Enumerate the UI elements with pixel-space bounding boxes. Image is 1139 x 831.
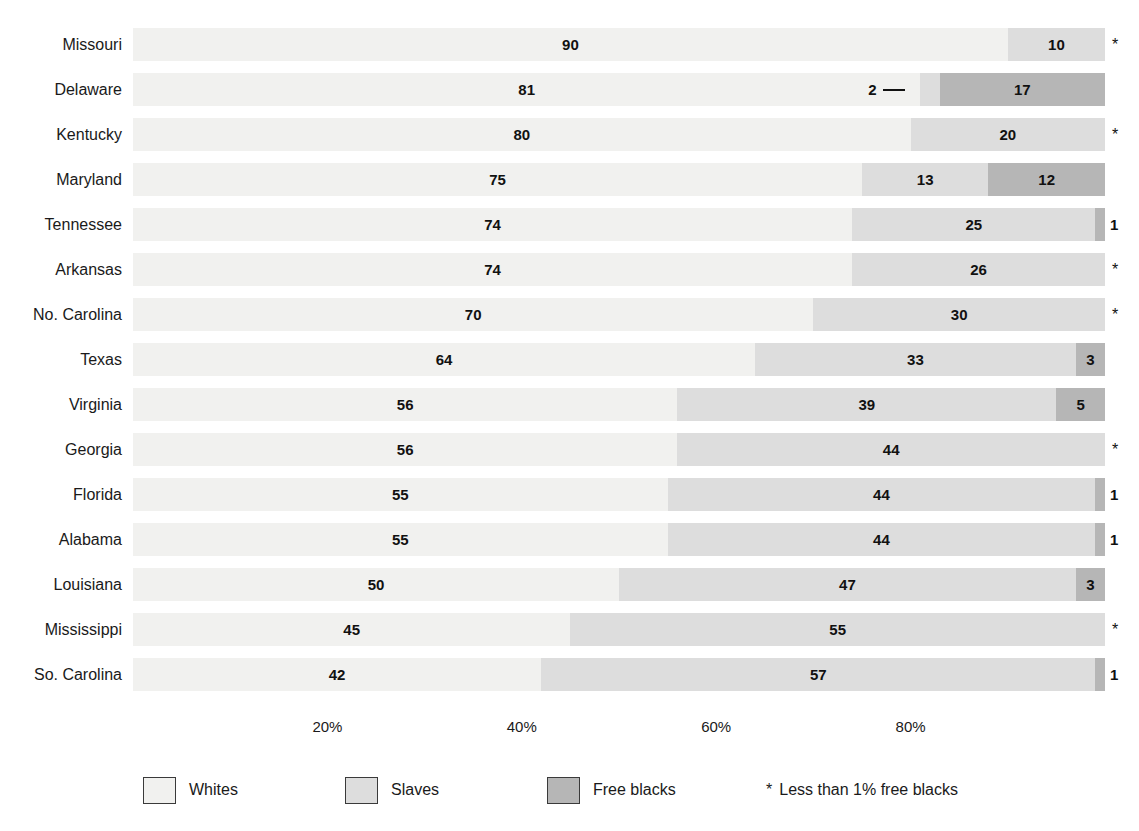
bar-track: 4257	[133, 658, 1105, 691]
chart-legend: WhitesSlavesFree blacks*Less than 1% fre…	[0, 775, 1139, 815]
segment-value-label: 12	[988, 163, 1105, 196]
segment-value-label: 44	[668, 478, 1096, 511]
row-state-label: Virginia	[0, 388, 122, 421]
chart-row: Delaware81217	[0, 73, 1139, 118]
segment-value-label: 81	[133, 73, 920, 106]
row-footnote-asterisk: *	[1112, 298, 1118, 331]
x-axis-tick-label: 20%	[312, 718, 342, 735]
callout-value: 2	[868, 81, 876, 98]
chart-row: Maryland751312	[0, 163, 1139, 208]
legend-item: Whites	[143, 775, 238, 805]
bar-track: 7030	[133, 298, 1105, 331]
segment-value-label: 45	[133, 613, 570, 646]
segment-value-label-outside: 1	[1110, 658, 1118, 691]
row-footnote-asterisk: *	[1112, 28, 1118, 61]
segment-value-label: 3	[1076, 568, 1105, 601]
legend-label: Slaves	[391, 781, 439, 799]
callout-leader-line	[883, 89, 905, 91]
bar-segment-free-blacks	[1095, 658, 1105, 691]
row-footnote-asterisk: *	[1112, 613, 1118, 646]
segment-callout-label: 2	[868, 73, 904, 106]
bar-track: 5544	[133, 478, 1105, 511]
segment-value-label: 56	[133, 433, 677, 466]
segment-value-label: 17	[940, 73, 1105, 106]
x-axis: 20%40%60%80%	[133, 718, 1105, 740]
segment-value-label: 75	[133, 163, 862, 196]
row-state-label: Maryland	[0, 163, 122, 196]
segment-value-label: 64	[133, 343, 755, 376]
segment-value-label: 90	[133, 28, 1008, 61]
row-state-label: Kentucky	[0, 118, 122, 151]
segment-value-label: 39	[677, 388, 1056, 421]
bar-track: 751312	[133, 163, 1105, 196]
segment-value-label: 5	[1056, 388, 1105, 421]
row-footnote-asterisk: *	[1112, 433, 1118, 466]
segment-value-label: 55	[133, 478, 668, 511]
chart-row: Louisiana50473	[0, 568, 1139, 613]
row-state-label: Louisiana	[0, 568, 122, 601]
chart-row: So. Carolina42571	[0, 658, 1139, 703]
bar-track: 64333	[133, 343, 1105, 376]
legend-swatch-icon	[143, 777, 176, 804]
row-state-label: Tennessee	[0, 208, 122, 241]
bar-segment-free-blacks	[1095, 208, 1105, 241]
legend-swatch-icon	[345, 777, 378, 804]
bar-segment-free-blacks	[1095, 523, 1105, 556]
segment-value-label: 3	[1076, 343, 1105, 376]
footnote-text: Less than 1% free blacks	[779, 781, 958, 799]
bar-track: 7426	[133, 253, 1105, 286]
row-state-label: Missouri	[0, 28, 122, 61]
stacked-bar-chart: Missouri9010*Delaware81217Kentucky8020*M…	[0, 0, 1139, 831]
row-state-label: Georgia	[0, 433, 122, 466]
segment-value-label: 30	[813, 298, 1105, 331]
segment-value-label-outside: 1	[1110, 523, 1118, 556]
bar-track: 56395	[133, 388, 1105, 421]
row-footnote-asterisk: *	[1112, 253, 1118, 286]
segment-value-label: 33	[755, 343, 1076, 376]
bar-track: 9010	[133, 28, 1105, 61]
legend-label: Free blacks	[593, 781, 676, 799]
chart-row: Florida55441	[0, 478, 1139, 523]
legend-footnote: *Less than 1% free blacks	[766, 775, 958, 805]
bar-track: 81217	[133, 73, 1105, 106]
segment-value-label: 80	[133, 118, 911, 151]
chart-row: Texas64333	[0, 343, 1139, 388]
segment-value-label: 44	[677, 433, 1105, 466]
segment-value-label-outside: 1	[1110, 208, 1118, 241]
bar-track: 5644	[133, 433, 1105, 466]
row-state-label: Delaware	[0, 73, 122, 106]
row-state-label: Florida	[0, 478, 122, 511]
segment-value-label: 47	[619, 568, 1076, 601]
chart-row: Alabama55441	[0, 523, 1139, 568]
segment-value-label: 74	[133, 208, 852, 241]
chart-row: Kentucky8020*	[0, 118, 1139, 163]
x-axis-tick-label: 40%	[507, 718, 537, 735]
segment-value-label: 56	[133, 388, 677, 421]
row-state-label: Alabama	[0, 523, 122, 556]
segment-value-label-outside: 1	[1110, 478, 1118, 511]
legend-label: Whites	[189, 781, 238, 799]
segment-value-label: 70	[133, 298, 813, 331]
legend-item: Slaves	[345, 775, 439, 805]
row-state-label: So. Carolina	[0, 658, 122, 691]
bar-track: 8020	[133, 118, 1105, 151]
segment-value-label: 74	[133, 253, 852, 286]
row-state-label: Mississippi	[0, 613, 122, 646]
segment-value-label: 26	[852, 253, 1105, 286]
legend-swatch-icon	[547, 777, 580, 804]
chart-row: Missouri9010*	[0, 28, 1139, 73]
legend-item: Free blacks	[547, 775, 676, 805]
row-state-label: Arkansas	[0, 253, 122, 286]
chart-row: Tennessee74251	[0, 208, 1139, 253]
chart-row: Arkansas7426*	[0, 253, 1139, 298]
chart-row: No. Carolina7030*	[0, 298, 1139, 343]
chart-row: Mississippi4555*	[0, 613, 1139, 658]
bar-track: 4555	[133, 613, 1105, 646]
footnote-asterisk-icon: *	[766, 781, 772, 799]
segment-value-label: 20	[911, 118, 1105, 151]
segment-value-label: 42	[133, 658, 541, 691]
x-axis-tick-label: 80%	[896, 718, 926, 735]
segment-value-label: 25	[852, 208, 1095, 241]
segment-value-label: 10	[1008, 28, 1105, 61]
bar-segment-free-blacks	[1095, 478, 1105, 511]
